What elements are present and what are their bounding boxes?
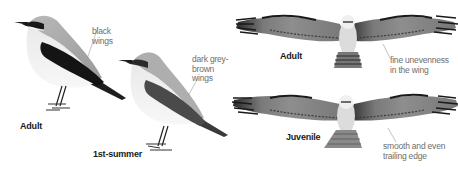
wheatear-adult-label: Adult bbox=[20, 121, 42, 131]
osprey-adult-annotation: fine unevenness in the wing bbox=[390, 56, 449, 75]
leader-line-juvenile-osprey bbox=[388, 128, 396, 142]
osprey-juvenile-figure bbox=[232, 95, 458, 148]
wheatear-adult-annotation: black wings bbox=[92, 27, 113, 46]
wheatear-first-summer-annotation: dark grey- brown wings bbox=[192, 55, 228, 84]
osprey-juvenile-annotation: smooth and even trailing edge bbox=[383, 142, 445, 161]
leader-line-adult-osprey bbox=[383, 44, 390, 58]
osprey-juvenile-label: Juvenile bbox=[286, 132, 320, 142]
osprey-adult-label: Adult bbox=[280, 51, 302, 61]
wheatear-first-summer-label: 1st-summer bbox=[93, 149, 142, 159]
